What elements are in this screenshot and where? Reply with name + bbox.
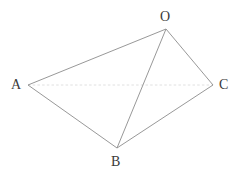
- geometry-figure: O A C B: [0, 0, 241, 179]
- vertex-label-a: A: [11, 78, 21, 92]
- edge-o-b: [117, 29, 166, 148]
- edge-b-c: [117, 85, 213, 148]
- figure-canvas: [0, 0, 241, 179]
- edge-a-b: [28, 85, 117, 148]
- edge-a-o: [28, 29, 166, 85]
- vertex-label-o: O: [160, 10, 170, 24]
- edge-o-c: [166, 29, 213, 85]
- vertex-label-b: B: [111, 155, 120, 169]
- vertex-label-c: C: [219, 78, 228, 92]
